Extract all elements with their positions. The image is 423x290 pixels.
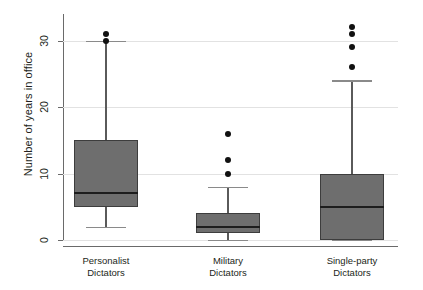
outlier-point <box>225 131 231 137</box>
plot-area: 0102030 <box>63 14 398 240</box>
lower-whisker-cap <box>332 240 372 241</box>
upper-whisker-cap <box>208 187 248 188</box>
y-tick-label-30: 30 <box>38 30 50 52</box>
lower-whisker-cap <box>208 240 248 241</box>
outlier-point <box>225 171 231 177</box>
outlier-point <box>349 24 355 30</box>
outlier-point <box>349 31 355 37</box>
outlier-point <box>103 38 109 44</box>
median-line <box>74 192 138 194</box>
boxplot-chart: Number of years in office 0102030 Person… <box>0 0 423 290</box>
lower-whisker-line <box>227 233 228 240</box>
upper-whisker-line <box>351 80 352 173</box>
y-tick-10 <box>58 174 63 175</box>
category-label-3: Single-partyDictators <box>292 255 412 279</box>
outlier-point <box>349 64 355 70</box>
outlier-point <box>349 44 355 50</box>
box-iqr <box>74 140 138 206</box>
gridline-20 <box>63 107 398 108</box>
y-tick-label-10: 10 <box>38 163 50 185</box>
category-label-2: MilitaryDictators <box>168 255 288 279</box>
median-line <box>320 206 384 208</box>
box-iqr <box>196 213 260 233</box>
upper-whisker-line <box>227 187 228 214</box>
y-tick-label-0: 0 <box>38 229 50 251</box>
outlier-point <box>103 31 109 37</box>
y-tick-20 <box>58 107 63 108</box>
outlier-point <box>225 157 231 163</box>
y-axis-label: Number of years in office <box>22 24 34 204</box>
y-tick-0 <box>58 240 63 241</box>
median-line <box>196 226 260 228</box>
y-tick-label-20: 20 <box>38 96 50 118</box>
x-axis-line <box>63 246 398 247</box>
upper-whisker-cap <box>332 80 372 81</box>
lower-whisker-line <box>105 207 106 227</box>
upper-whisker-line <box>105 41 106 141</box>
category-label-1: PersonalistDictators <box>46 255 166 279</box>
y-tick-30 <box>58 41 63 42</box>
lower-whisker-cap <box>86 227 126 228</box>
